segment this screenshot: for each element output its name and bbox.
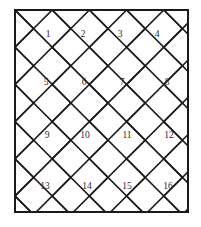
- tiling-canvas: 12345678910111213141516: [0, 0, 201, 227]
- tiling-figure: 12345678910111213141516: [0, 0, 201, 227]
- diag-down-left-18: [199, 0, 201, 227]
- diag-down-left-5: [0, 0, 15, 227]
